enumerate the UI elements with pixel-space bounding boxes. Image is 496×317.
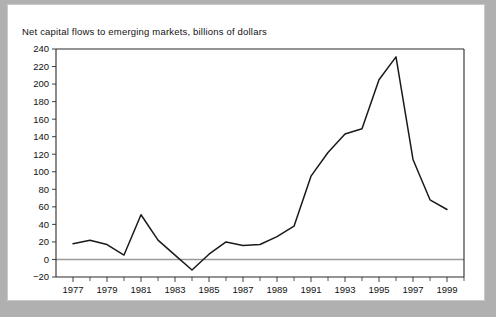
x-axis-tick-label: 1987	[232, 284, 253, 295]
x-axis-tick-label: 1985	[198, 284, 219, 295]
x-axis-ticks	[73, 277, 464, 282]
y-axis-tick-label: 100	[33, 166, 49, 177]
plot-frame	[56, 49, 464, 277]
y-axis-tick-label: 40	[38, 219, 49, 230]
x-axis-tick-label: 1979	[96, 284, 117, 295]
x-axis-tick-label: 1997	[402, 284, 423, 295]
y-axis-tick-label: 180	[33, 96, 49, 107]
x-axis-tick-label: 1983	[164, 284, 185, 295]
line-chart-svg: −20020406080100120140160180200220240 197…	[0, 0, 496, 317]
y-axis-tick-label: 120	[33, 149, 49, 160]
y-axis-tick-label: 220	[33, 61, 49, 72]
capital-flows-line	[73, 57, 447, 270]
x-axis-tick-label: 1977	[62, 284, 83, 295]
x-axis-tick-label: 1981	[130, 284, 151, 295]
y-axis-tick-label: 80	[38, 184, 49, 195]
x-axis-tick-labels: 1977197919811983198519871989199119931995…	[62, 284, 457, 295]
y-axis-tick-label: 160	[33, 114, 49, 125]
y-axis-tick-label: 60	[38, 201, 49, 212]
figure-root: Net capital flows to emerging markets, b…	[0, 0, 496, 317]
y-axis-tick-labels: −20020406080100120140160180200220240	[33, 43, 49, 282]
x-axis-tick-label: 1993	[334, 284, 355, 295]
x-axis-tick-label: 1991	[300, 284, 321, 295]
y-axis-tick-label: 140	[33, 131, 49, 142]
y-axis-tick-label: −20	[33, 271, 49, 282]
y-axis-tick-label: 200	[33, 78, 49, 89]
y-axis-tick-label: 240	[33, 43, 49, 54]
x-axis-tick-label: 1989	[266, 284, 287, 295]
y-axis-ticks	[52, 49, 56, 277]
y-axis-tick-label: 0	[44, 254, 49, 265]
x-axis-tick-label: 1995	[368, 284, 389, 295]
x-axis-tick-label: 1999	[436, 284, 457, 295]
y-axis-tick-label: 20	[38, 236, 49, 247]
chart-plot-area: −20020406080100120140160180200220240 197…	[0, 0, 496, 317]
